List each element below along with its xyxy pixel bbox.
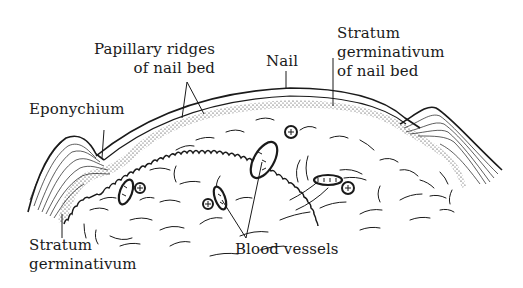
- label-papillary-ridges-line1: Papillary ridges: [94, 40, 215, 59]
- label-papillary-ridges-line2: of nail bed: [94, 59, 215, 78]
- label-sgnb-line2: germinativum: [337, 43, 445, 62]
- right-skin-fold: [400, 107, 502, 184]
- leader-vessels-left: [222, 200, 246, 238]
- leader-lines: [62, 58, 333, 238]
- label-sg-line2: germinativum: [29, 255, 137, 274]
- label-stratum-germinativum: Stratum germinativum: [29, 236, 137, 274]
- nail-cross-section-diagram: Papillary ridges of nail bed Nail Stratu…: [0, 0, 523, 288]
- leader-papillary-left: [182, 82, 187, 118]
- papillary-ridges-border: [64, 151, 318, 227]
- label-nail: Nail: [266, 52, 298, 71]
- label-papillary-ridges: Papillary ridges of nail bed: [94, 40, 215, 78]
- label-sgnb-line3: of nail bed: [337, 62, 445, 81]
- blood-vessel-left-oval: [116, 178, 136, 207]
- label-eponychium: Eponychium: [29, 100, 124, 119]
- leader-eponychium: [102, 130, 104, 158]
- label-sg-line1: Stratum: [29, 236, 137, 255]
- label-stratum-germinativum-nail-bed: Stratum germinativum of nail bed: [337, 24, 445, 81]
- leader-papillary-right: [187, 82, 204, 114]
- label-sgnb-line1: Stratum: [337, 24, 445, 43]
- label-blood-vessels: Blood vessels: [235, 240, 339, 259]
